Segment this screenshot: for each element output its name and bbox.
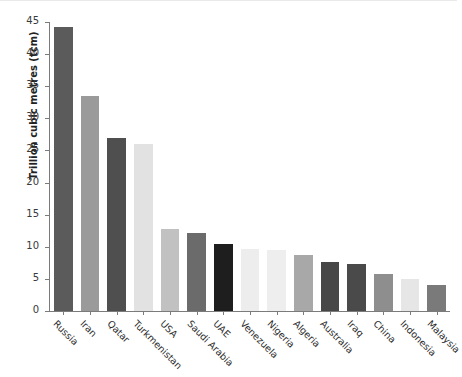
x-tick-mark <box>117 311 118 315</box>
y-axis-title: Trillion cubic metres (tcm) <box>28 11 39 201</box>
y-tick-label: 15 <box>26 208 39 219</box>
y-tick-label: 35 <box>26 79 39 90</box>
bar-series <box>50 22 450 311</box>
y-tick-label: 30 <box>26 111 39 122</box>
x-tick-label: Iran <box>78 318 99 339</box>
bar <box>347 264 366 311</box>
bar <box>81 96 100 311</box>
top-divider <box>0 0 457 1</box>
bar <box>294 255 313 312</box>
bar <box>427 285 446 311</box>
x-tick-mark <box>410 311 411 315</box>
y-tick-mark <box>45 54 49 55</box>
x-tick-label: Qatar <box>105 318 132 345</box>
bar <box>374 274 393 311</box>
x-tick-label: UAE <box>212 318 234 340</box>
bar <box>134 144 153 311</box>
x-tick-mark <box>383 311 384 315</box>
x-tick-label: Russia <box>52 318 81 347</box>
x-tick-mark <box>143 311 144 315</box>
x-tick-mark <box>223 311 224 315</box>
x-tick-mark <box>357 311 358 315</box>
y-tick-mark <box>45 118 49 119</box>
y-tick-mark <box>45 86 49 87</box>
bar <box>187 233 206 311</box>
x-tick-mark <box>170 311 171 315</box>
x-tick-mark <box>197 311 198 315</box>
x-tick-mark <box>63 311 64 315</box>
bar <box>401 279 420 311</box>
bar <box>321 262 340 311</box>
y-tick-label: 10 <box>26 240 39 251</box>
bar <box>54 27 73 311</box>
bar <box>241 249 260 311</box>
y-tick-label: 25 <box>26 143 39 154</box>
y-tick-label: 0 <box>33 304 39 315</box>
x-tick-mark <box>250 311 251 315</box>
bar <box>107 138 126 311</box>
x-tick-mark <box>303 311 304 315</box>
bar <box>267 250 286 311</box>
y-tick-mark <box>45 183 49 184</box>
bar <box>161 229 180 311</box>
x-tick-label: Algeria <box>292 318 323 349</box>
y-tick-label: 45 <box>26 15 39 26</box>
x-tick-mark <box>90 311 91 315</box>
y-tick-mark <box>45 279 49 280</box>
y-tick-label: 5 <box>33 272 39 283</box>
x-tick-mark <box>437 311 438 315</box>
y-tick-label: 20 <box>26 176 39 187</box>
y-tick-mark <box>45 215 49 216</box>
x-tick-mark <box>330 311 331 315</box>
y-tick-mark <box>45 150 49 151</box>
x-tick-label: Iraq <box>345 318 366 339</box>
x-tick-label: China <box>372 318 399 345</box>
bar <box>214 244 233 311</box>
x-tick-mark <box>277 311 278 315</box>
y-tick-label: 40 <box>26 47 39 58</box>
y-tick-mark <box>45 22 49 23</box>
y-tick-mark <box>45 247 49 248</box>
y-tick-mark <box>45 311 49 312</box>
x-tick-label: USA <box>158 318 180 340</box>
